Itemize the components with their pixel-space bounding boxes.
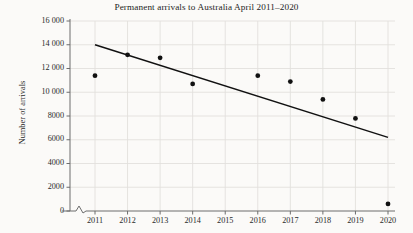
data-point (125, 52, 130, 57)
data-point (386, 201, 391, 206)
data-points (93, 52, 391, 206)
plot-area (0, 0, 413, 233)
data-point (255, 73, 260, 78)
axis-lines (62, 19, 395, 215)
grid-lines (70, 21, 395, 211)
data-point (288, 79, 293, 84)
data-point (93, 73, 98, 78)
data-point (320, 97, 325, 102)
data-point (158, 55, 163, 60)
data-point (190, 82, 195, 87)
trend-line (95, 45, 388, 138)
chart-container: Permanent arrivals to Australia April 20… (0, 0, 413, 233)
data-point (353, 116, 358, 121)
